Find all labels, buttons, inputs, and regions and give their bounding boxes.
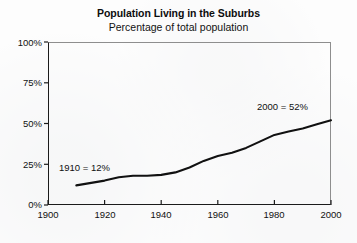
annotation-2000: 2000 = 52%: [257, 101, 308, 112]
x-axis-ticks: [48, 200, 331, 205]
chart-canvas: [0, 0, 357, 243]
annotation-1910: 1910 = 12%: [59, 162, 110, 173]
y-axis-ticks: [44, 42, 48, 205]
chart-figure: Population Living in the Suburbs Percent…: [0, 0, 357, 243]
data-line-suburb-population: [76, 120, 331, 185]
